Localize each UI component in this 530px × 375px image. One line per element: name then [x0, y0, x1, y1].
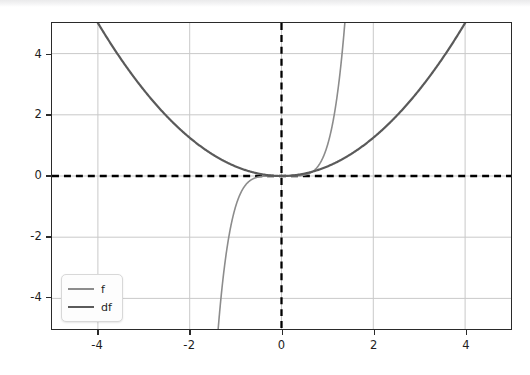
xtick-mark-0	[282, 330, 284, 335]
xtick-label--4: -4	[91, 338, 103, 352]
xtick-label-0: 0	[278, 338, 286, 352]
legend[interactable]: f df	[61, 274, 123, 322]
xtick-label-2: 2	[370, 338, 378, 352]
legend-entry-f: f	[68, 280, 116, 298]
xtick-mark-2	[374, 330, 376, 335]
legend-label-f: f	[101, 284, 105, 295]
legend-entry-df: df	[68, 298, 116, 316]
xtick-mark--2	[189, 330, 191, 335]
legend-swatch-df	[68, 306, 94, 308]
legend-swatch-f	[68, 288, 94, 290]
ytick-label--2: -2	[12, 229, 42, 243]
xtick-mark-4	[466, 330, 468, 335]
scan-artifact-strip	[0, 0, 530, 7]
ytick-label--4: -4	[12, 290, 42, 304]
legend-label-df: df	[101, 302, 112, 313]
xtick-mark--4	[97, 330, 99, 335]
ytick-label-0: 0	[12, 168, 42, 182]
ytick-label-4: 4	[12, 47, 42, 61]
xtick-label--2: -2	[183, 338, 195, 352]
ytick-label-2: 2	[12, 107, 42, 121]
xtick-label-4: 4	[462, 338, 470, 352]
matplotlib-figure: 4 2 0 -2 -4 -4 -2 0 2 4 f df	[0, 0, 530, 375]
